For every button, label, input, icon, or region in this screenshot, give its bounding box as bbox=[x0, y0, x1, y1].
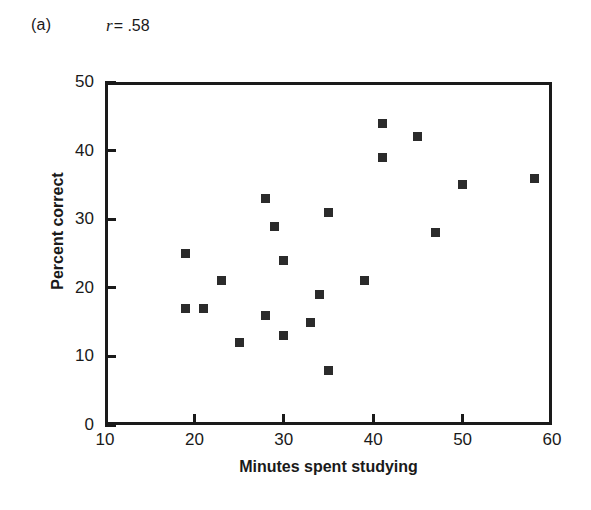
y-tick-label-30: 30 bbox=[48, 210, 94, 227]
x-axis-label: Minutes spent studying bbox=[105, 458, 552, 476]
y-tick-label-10: 10 bbox=[48, 347, 94, 364]
data-point bbox=[324, 366, 333, 375]
panel-label: (a) bbox=[31, 16, 51, 34]
x-tick-40 bbox=[372, 414, 375, 425]
y-tick-30 bbox=[105, 218, 116, 221]
x-tick-label-50: 50 bbox=[438, 431, 488, 448]
y-tick-0 bbox=[105, 424, 116, 427]
data-point bbox=[360, 276, 369, 285]
y-tick-label-50: 50 bbox=[48, 73, 94, 90]
x-tick-label-40: 40 bbox=[348, 431, 398, 448]
data-point bbox=[530, 174, 539, 183]
data-point bbox=[279, 331, 288, 340]
x-tick-label-10: 10 bbox=[80, 431, 130, 448]
y-tick-10 bbox=[105, 355, 116, 358]
y-tick-label-20: 20 bbox=[48, 279, 94, 296]
y-tick-50 bbox=[105, 81, 116, 84]
data-point bbox=[413, 132, 422, 141]
y-tick-label-40: 40 bbox=[48, 142, 94, 159]
data-point bbox=[324, 208, 333, 217]
data-point bbox=[217, 276, 226, 285]
data-point bbox=[235, 338, 244, 347]
data-point bbox=[199, 304, 208, 313]
scatter-plot-figure: (a) r= .58 Percent correct Minutes spent… bbox=[0, 0, 591, 510]
correlation-annotation: r= .58 bbox=[106, 16, 150, 36]
correlation-value: = .58 bbox=[114, 17, 150, 34]
x-tick-label-30: 30 bbox=[259, 431, 309, 448]
data-point bbox=[431, 228, 440, 237]
y-tick-40 bbox=[105, 149, 116, 152]
data-point bbox=[261, 194, 270, 203]
data-point bbox=[378, 153, 387, 162]
y-tick-20 bbox=[105, 286, 116, 289]
x-tick-label-20: 20 bbox=[169, 431, 219, 448]
data-point bbox=[458, 180, 467, 189]
data-point bbox=[306, 318, 315, 327]
x-tick-label-60: 60 bbox=[527, 431, 577, 448]
x-tick-30 bbox=[282, 414, 285, 425]
data-point bbox=[270, 222, 279, 231]
data-point bbox=[315, 290, 324, 299]
data-point bbox=[378, 119, 387, 128]
correlation-symbol: r bbox=[106, 16, 114, 35]
data-point bbox=[181, 249, 190, 258]
data-point bbox=[261, 311, 270, 320]
x-tick-20 bbox=[193, 414, 196, 425]
data-point bbox=[279, 256, 288, 265]
data-point bbox=[181, 304, 190, 313]
x-tick-50 bbox=[461, 414, 464, 425]
